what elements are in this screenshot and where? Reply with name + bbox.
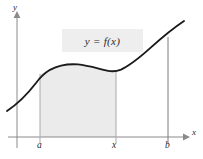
tick-label-a: a [37,141,42,151]
equation-callout-box: y = f(x) [62,29,143,52]
shaded-area-under-curve [40,65,116,137]
tick-label-b: b [165,141,170,151]
figure-container: y = f(x) y x a x b [0,0,203,159]
tick-label-x: x [112,141,116,151]
y-axis-arrowhead [14,11,21,18]
equation-label: y = f(x) [85,35,120,47]
x-axis-arrowhead [183,134,190,141]
function-plot-svg [0,0,203,159]
x-axis-label: x [192,128,196,137]
y-axis-label: y [13,3,17,12]
